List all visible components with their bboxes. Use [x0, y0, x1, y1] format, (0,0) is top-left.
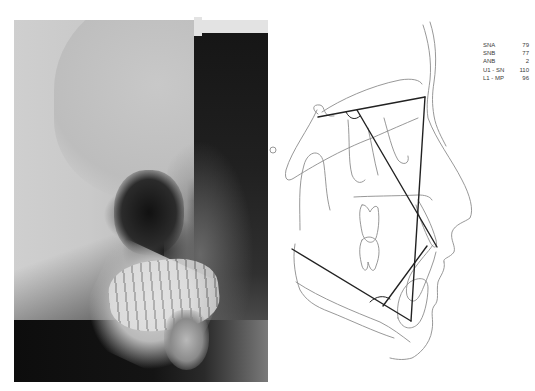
lower-incisor-axis	[383, 246, 427, 306]
measurement-row: ANB 2	[483, 57, 529, 65]
measurement-row: SNA 79	[483, 41, 529, 49]
condyle	[294, 244, 394, 338]
sn-line	[318, 97, 425, 117]
measurements-table: SNA 79 SNB 77 ANB 2 U1 - SN 110 L1 - MP …	[483, 41, 529, 82]
measurement-label: U1 - SN	[483, 66, 504, 74]
sna-angle-arc	[346, 112, 360, 119]
measurement-label: ANB	[483, 57, 495, 65]
orbit-rim	[348, 120, 365, 182]
measurement-value: 2	[526, 57, 529, 65]
cephalometric-radiograph	[14, 20, 268, 382]
measurement-label: SNA	[483, 41, 495, 49]
measurement-value: 79	[522, 41, 529, 49]
measurement-value: 96	[522, 74, 529, 82]
pterygoid	[300, 153, 330, 230]
measurement-row: L1 - MP 96	[483, 74, 529, 82]
soft-tissue-lips	[390, 262, 444, 360]
s-b-line	[357, 110, 437, 247]
measurement-row: U1 - SN 110	[483, 66, 529, 74]
nasal-floor	[354, 195, 432, 200]
xray-chin	[164, 310, 209, 370]
measurement-value: 77	[522, 49, 529, 57]
pterygomaxillary	[384, 118, 408, 163]
measurement-row: SNB 77	[483, 49, 529, 57]
measurement-label: SNB	[483, 49, 495, 57]
measurement-value: 110	[519, 66, 529, 74]
mandible-lower-border	[296, 282, 410, 342]
porion-marker	[270, 147, 276, 153]
maxilla-outline	[368, 128, 378, 175]
clivus	[285, 110, 418, 180]
soft-tissue-forehead	[423, 25, 472, 262]
calibration-ruler	[194, 20, 268, 33]
measurement-label: L1 - MP	[483, 74, 504, 82]
